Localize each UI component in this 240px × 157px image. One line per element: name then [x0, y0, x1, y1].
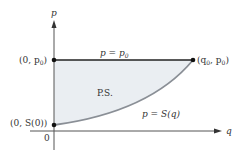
point-top-left: [52, 58, 57, 63]
x-axis-arrow-icon: [214, 129, 222, 134]
producer-surplus-diagram: p q 0 (0, p0) (q0, p0) (0, S(0)) p = p0 …: [0, 0, 240, 157]
y-axis-label: p: [51, 8, 57, 18]
bottom-left-point-label: (0, S(0)): [10, 118, 47, 128]
origin-label: 0: [44, 133, 50, 143]
x-axis-label: q: [226, 126, 232, 136]
region-label: P.S.: [97, 88, 113, 98]
y-axis-arrow-icon: [52, 20, 57, 28]
top-left-point-label: (0, p0): [19, 55, 47, 66]
price-line-label: p = p0: [100, 48, 129, 59]
point-top-right: [191, 58, 196, 63]
supply-curve-label: p = S(q): [142, 109, 180, 119]
top-right-point-label: (q0, p0): [197, 55, 229, 66]
point-bottom-left: [52, 123, 57, 128]
